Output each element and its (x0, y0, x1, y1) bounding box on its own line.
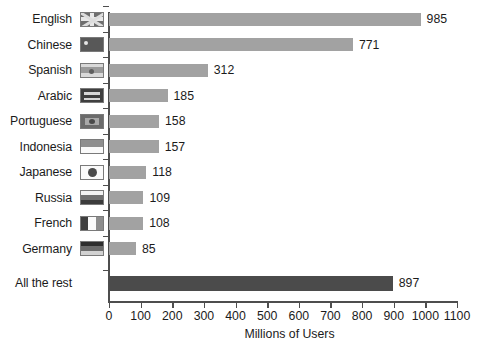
x-axis-title-text: Millions of Users (244, 327, 334, 341)
bar-value-label: 158 (165, 114, 186, 128)
category-label-french: French (0, 216, 72, 230)
x-axis-tick (109, 302, 110, 308)
bar-row: Arabic185 (0, 83, 479, 109)
x-axis-tick (362, 302, 363, 308)
bar-english (109, 13, 421, 26)
category-label-portuguese: Portuguese (0, 114, 72, 128)
bar-germany (109, 242, 136, 255)
x-axis-tick-label: 1000 (412, 309, 439, 323)
bar-row: Chinese771 (0, 32, 479, 58)
bar-value-label: 157 (165, 140, 186, 154)
x-axis-tick-label: 900 (383, 309, 404, 323)
y-axis-tick (103, 236, 109, 237)
flag-indonesia-icon (80, 139, 104, 154)
bar-russia (109, 191, 143, 204)
bar-row: Portuguese158 (0, 108, 479, 134)
category-label-russia: Russia (0, 191, 72, 205)
x-axis-tick-label: 400 (225, 309, 246, 323)
x-axis-tick (457, 302, 458, 308)
bar-chinese (109, 38, 353, 51)
bar-french (109, 217, 143, 230)
x-axis-tick-label: 800 (352, 309, 373, 323)
category-label-japanese: Japanese (0, 165, 72, 179)
x-axis-tick-label: 500 (257, 309, 278, 323)
bar-row: Germany85 (0, 236, 479, 262)
y-axis-tick (103, 32, 109, 33)
flag-saudi-arabia-icon (80, 88, 104, 103)
category-label-all-the-rest: All the rest (0, 276, 72, 290)
bar-all-the-rest (109, 276, 393, 291)
flag-brazil-icon (80, 114, 104, 129)
bar-row: Russia109 (0, 185, 479, 211)
y-axis-tick (103, 270, 109, 271)
x-axis-tick-label: 1100 (444, 309, 470, 323)
x-axis-tick-label: 300 (194, 309, 215, 323)
bar-value-label: 771 (359, 38, 380, 52)
x-axis-title: Millions of Users (0, 327, 479, 341)
x-axis-tick (172, 302, 173, 308)
x-axis-tick (394, 302, 395, 308)
category-label-germany: Germany (0, 242, 72, 256)
bar-japanese (109, 166, 146, 179)
y-axis-tick (103, 108, 109, 109)
bar-value-label: 897 (399, 276, 420, 290)
bar-row: French108 (0, 210, 479, 236)
x-axis-tick (236, 302, 237, 308)
x-axis-tick-label: 200 (162, 309, 183, 323)
x-axis-tick (141, 302, 142, 308)
bar-value-label: 85 (142, 242, 156, 256)
x-axis-tick (204, 302, 205, 308)
bar-arabic (109, 89, 168, 102)
x-axis-tick (330, 302, 331, 308)
bar-chart: English985Chinese771Spanish312Arabic185P… (0, 0, 479, 350)
bar-indonesia (109, 140, 159, 153)
y-axis-tick (103, 185, 109, 186)
x-axis-tick-label: 700 (320, 309, 341, 323)
flag-russia-icon (80, 190, 104, 205)
y-axis-tick (103, 6, 109, 7)
bar-value-label: 109 (149, 191, 170, 205)
x-axis-tick-label: 0 (106, 309, 113, 323)
flag-germany-icon (80, 241, 104, 256)
x-axis-tick (267, 302, 268, 308)
bar-value-label: 312 (214, 63, 235, 77)
bar-portuguese (109, 115, 159, 128)
bar-value-label: 108 (149, 216, 170, 230)
bar-spanish (109, 64, 208, 77)
x-axis-tick-label: 600 (289, 309, 310, 323)
bar-row: English985 (0, 6, 479, 32)
bar-row: Spanish312 (0, 57, 479, 83)
bar-value-label: 118 (152, 165, 172, 179)
y-axis-tick (103, 134, 109, 135)
y-axis-tick (103, 159, 109, 160)
bar-row: All the rest897 (0, 270, 479, 296)
bar-row: Indonesia157 (0, 134, 479, 160)
category-label-chinese: Chinese (0, 38, 72, 52)
flag-united-kingdom-icon (80, 12, 104, 27)
y-axis-tick (103, 57, 109, 58)
y-axis-tick (103, 83, 109, 84)
category-label-spanish: Spanish (0, 63, 72, 77)
flag-spain-icon (80, 63, 104, 78)
bar-row: Japanese118 (0, 159, 479, 185)
category-label-english: English (0, 12, 72, 26)
y-axis-tick (103, 210, 109, 211)
x-axis-tick (425, 302, 426, 308)
x-axis-tick-label: 100 (130, 309, 151, 323)
flag-france-icon (80, 216, 104, 231)
bar-value-label: 185 (174, 89, 195, 103)
bar-rows: English985Chinese771Spanish312Arabic185P… (0, 12, 479, 302)
flag-china-icon (80, 37, 104, 52)
category-label-arabic: Arabic (0, 89, 72, 103)
x-axis-tick (299, 302, 300, 308)
bar-value-label: 985 (427, 12, 448, 26)
flag-japan-icon (80, 165, 104, 180)
category-label-indonesia: Indonesia (0, 140, 72, 154)
